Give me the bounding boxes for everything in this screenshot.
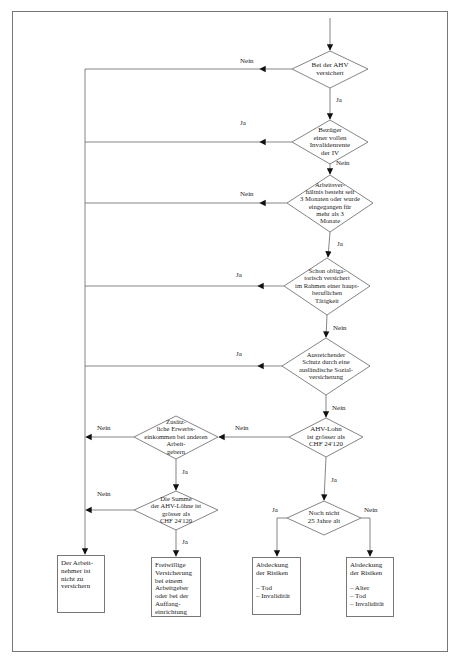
label-d9-yes: Ja <box>272 506 278 514</box>
label-d7-no: Nein <box>97 424 111 432</box>
decision-text-sum-ahv-salaries: Die Summe der AHV-Löhne ist grösser als … <box>151 495 201 525</box>
label-d9-no: Nein <box>364 506 378 514</box>
decision-text-under-25: Noch nicht 25 Jahre alt <box>308 510 340 525</box>
outcome-not-insured: Der Arbeit- nehmer ist nicht zu versiche… <box>57 555 105 613</box>
decision-text-ahv-insured: Bei der AHV versichert <box>312 62 349 77</box>
decision-text-ahv-salary: AHV-Lohn ist grösser als CHF 24'120 <box>307 426 345 449</box>
label-d7-yes: Ja <box>182 468 188 476</box>
label-d2-yes: Ja <box>240 119 246 127</box>
label-d3-yes: Ja <box>337 240 343 248</box>
label-d5-no: Nein <box>332 404 346 412</box>
outcome-risk-age-death-disability: Abdeckung der Risiken – Alter – Tod – In… <box>346 557 394 617</box>
label-d5-yes: Ja <box>236 350 242 358</box>
label-d3-no: Nein <box>240 190 254 198</box>
label-d1-yes: Ja <box>336 96 342 104</box>
decision-text-employment-duration: Arbeitsver- hältnis besteht seit 3 Monat… <box>300 181 360 224</box>
label-d8-yes: Ja <box>182 538 188 546</box>
decision-text-iv-pension: Bezüger einer vollen Invalidenrente der … <box>310 127 350 157</box>
label-d6-yes: Ja <box>331 476 337 484</box>
label-d4-yes: Ja <box>236 271 242 279</box>
outcome-risk-death-disability: Abdeckung der Risiken – Tod – Invaliditä… <box>252 557 301 615</box>
label-d2-no: Nein <box>336 159 350 167</box>
decision-text-mandatory-insured: Schon obliga- torisch versichert im Rahm… <box>295 267 359 304</box>
outcome-voluntary-insurance: Freiwillige Versicherung bei einem Arbei… <box>151 557 201 617</box>
label-d1-no: Nein <box>240 57 254 65</box>
label-d4-no: Nein <box>333 324 347 332</box>
decision-text-additional-income: Zusätz- liche Erwerbs- einkommen bei and… <box>144 418 207 455</box>
label-d6-no: Nein <box>235 424 249 432</box>
label-d8-no: Nein <box>97 490 111 498</box>
decision-text-foreign-social-insurance: Ausreichender Schutz durch eine ausländi… <box>299 351 353 381</box>
